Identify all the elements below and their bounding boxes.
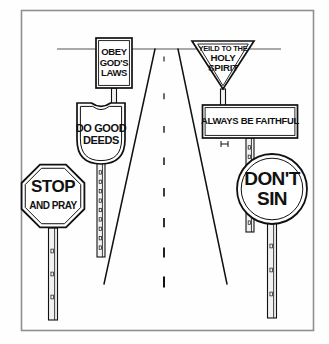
sign-text-line: ALWAYS BE FAITHFUL <box>201 115 300 126</box>
sign-text-line: DEEDS <box>83 134 119 146</box>
post-obey-gods-laws <box>112 88 117 104</box>
sign-text-line: DO GOOD <box>76 122 127 134</box>
post-body <box>112 88 117 104</box>
post-body <box>221 89 226 106</box>
sign-text-line: SIN <box>257 188 287 209</box>
sign-text-line: STOP <box>31 177 75 196</box>
post-body <box>49 228 58 320</box>
sign-text-line: AND PRAY <box>29 200 77 211</box>
post-body <box>97 163 105 257</box>
sign-text-line: SPIRIT <box>208 62 238 73</box>
post-body <box>268 222 277 318</box>
obey-gods-laws-sign[interactable]: OBEYGOD'SLAWS <box>96 38 132 88</box>
dont-sin-sign[interactable]: DON'TSIN <box>237 154 307 224</box>
post-stop-and-pray <box>49 228 58 320</box>
post-dont-sin <box>268 222 277 318</box>
illustration-canvas: OBEYGOD'SLAWSDO GOODDEEDSSTOPAND PRAYYEI… <box>0 0 329 344</box>
always-be-faithful-sign[interactable]: ALWAYS BE FAITHFUL <box>201 105 300 138</box>
stop-and-pray-sign[interactable]: STOPAND PRAY <box>22 165 85 228</box>
road-signs-illustration: OBEYGOD'SLAWSDO GOODDEEDSSTOPAND PRAYYEI… <box>0 0 329 344</box>
sign-text-line: DON'T <box>244 168 300 189</box>
sign-text-line: LAWS <box>101 67 127 78</box>
post-do-good-deeds <box>97 163 105 257</box>
do-good-deeds-sign[interactable]: DO GOODDEEDS <box>76 103 127 164</box>
post-yeild-holy-spirit <box>221 89 226 106</box>
